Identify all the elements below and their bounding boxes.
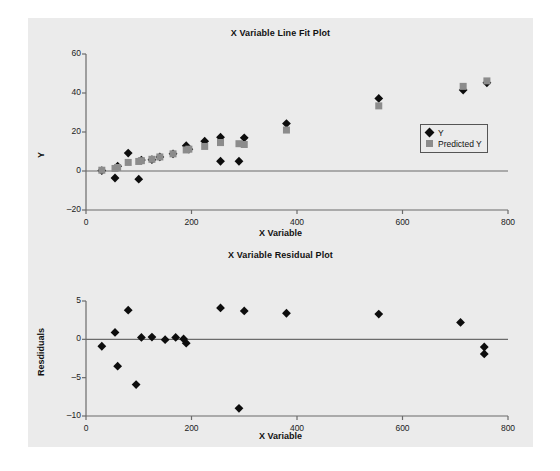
data-point [217,139,224,146]
data-point [216,157,225,166]
data-point [216,304,225,313]
chart-canvas: X Variable Line Fit Plot Y X Variable Y … [28,18,533,447]
legend: Y Predicted Y [420,124,488,153]
residual-plot: X Variable Residual Plot Resdiduals X Va… [28,246,533,447]
data-point [111,328,120,337]
x-tick-label: 0 [66,217,106,227]
data-point [201,143,208,150]
data-point [124,149,133,158]
data-point [483,77,490,84]
x-tick-label: 600 [383,217,423,227]
square-marker-icon [425,140,434,147]
data-point [170,150,177,157]
x-tick-label: 600 [383,423,423,433]
x-tick-label: 800 [488,423,528,433]
data-point [480,343,489,352]
data-point [185,146,192,153]
data-point [456,318,465,327]
y-tick-label: 5 [50,295,81,305]
y-tick-label: 0 [50,333,81,343]
data-point [98,167,105,174]
data-point [125,159,132,166]
legend-item-y: Y [425,127,482,138]
data-point [374,310,383,319]
y-tick-label: 20 [50,126,81,136]
line-fit-plot: X Variable Line Fit Plot Y X Variable Y … [28,18,533,246]
data-point [113,362,122,371]
data-point [124,306,133,315]
data-point [148,333,157,342]
x-tick-label: 400 [277,217,317,227]
x-tick-label: 200 [172,217,212,227]
data-point [171,333,180,342]
residual-plot-area [28,246,533,447]
data-point [134,175,143,184]
data-point [460,83,467,90]
x-tick-label: 400 [277,423,317,433]
data-point [111,174,120,183]
data-point [375,102,382,109]
y-tick-label: –5 [50,372,81,382]
data-point [156,153,163,160]
y-tick-label: 60 [50,48,81,58]
data-point [137,333,146,342]
data-point [132,380,141,389]
data-point [240,307,249,316]
legend-item-predicted-y: Predicted Y [425,138,482,149]
data-point [235,404,244,413]
data-point [148,156,155,163]
legend-label-predicted-y: Predicted Y [438,139,482,149]
y-tick-label: 40 [50,87,81,97]
data-point [235,157,244,166]
data-point [161,335,170,344]
data-point [138,157,145,164]
data-point [283,127,290,134]
y-tick-label: –20 [50,204,81,214]
data-point [241,141,248,148]
y-tick-label: –10 [50,410,81,420]
data-point [97,342,106,351]
y-tick-label: 0 [50,165,81,175]
x-tick-label: 200 [172,423,212,433]
data-point [282,309,291,318]
legend-label-y: Y [438,128,444,138]
x-tick-label: 800 [488,217,528,227]
data-point [374,94,383,103]
x-tick-label: 0 [66,423,106,433]
data-point [114,164,121,171]
diamond-marker-icon [425,129,434,136]
